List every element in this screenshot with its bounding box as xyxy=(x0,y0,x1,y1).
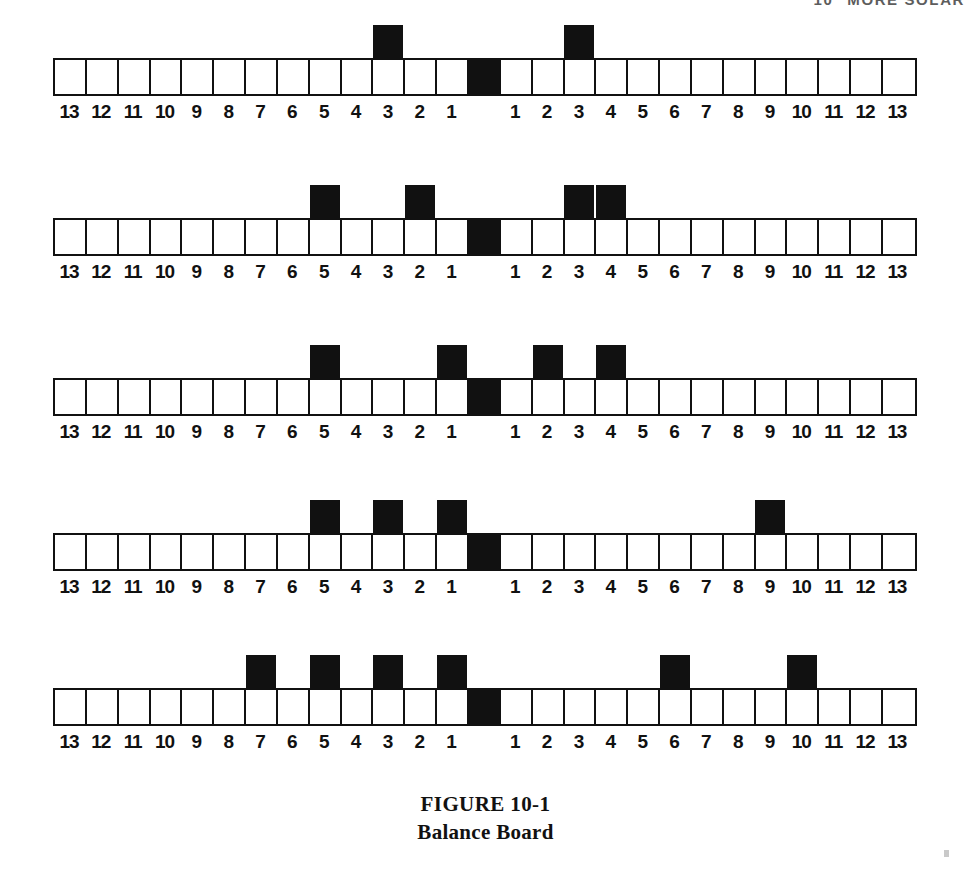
board-cell-left-3[interactable] xyxy=(373,380,405,414)
board-cell-left-11[interactable] xyxy=(119,690,151,724)
board-cell-right-6[interactable] xyxy=(660,690,692,724)
board-cell-right-10[interactable] xyxy=(787,60,819,94)
board-cell-right-8[interactable] xyxy=(724,60,756,94)
weight-block-left-1[interactable] xyxy=(437,655,467,690)
board-cell-right-13[interactable] xyxy=(883,380,915,414)
board-cell-right-2[interactable] xyxy=(533,535,565,569)
board-cell-left-7[interactable] xyxy=(246,535,278,569)
board-cell-right-12[interactable] xyxy=(851,690,883,724)
board-cell-left-11[interactable] xyxy=(119,60,151,94)
board-cell-left-10[interactable] xyxy=(151,690,183,724)
board-cell-left-10[interactable] xyxy=(151,60,183,94)
board-cell-right-2[interactable] xyxy=(533,690,565,724)
board-cell-right-3[interactable] xyxy=(565,690,597,724)
board-cell-left-13[interactable] xyxy=(55,380,87,414)
board-cell-left-2[interactable] xyxy=(405,535,437,569)
board-cell-right-5[interactable] xyxy=(628,535,660,569)
board-cell-right-9[interactable] xyxy=(756,60,788,94)
board-cell-left-4[interactable] xyxy=(342,220,374,254)
board-cell-left-4[interactable] xyxy=(342,690,374,724)
board-cell-left-7[interactable] xyxy=(246,60,278,94)
board-cell-left-3[interactable] xyxy=(373,220,405,254)
board-cell-right-13[interactable] xyxy=(883,220,915,254)
board-cell-left-11[interactable] xyxy=(119,380,151,414)
board-cell-right-11[interactable] xyxy=(819,220,851,254)
board-cell-left-1[interactable] xyxy=(437,220,469,254)
board-cell-left-3[interactable] xyxy=(373,690,405,724)
board-cell-left-9[interactable] xyxy=(182,220,214,254)
board-cell-left-7[interactable] xyxy=(246,220,278,254)
board-cell-left-2[interactable] xyxy=(405,220,437,254)
board-cell-left-10[interactable] xyxy=(151,380,183,414)
board-cell-left-8[interactable] xyxy=(214,60,246,94)
board-cell-right-7[interactable] xyxy=(692,380,724,414)
board-cell-left-13[interactable] xyxy=(55,690,87,724)
board-cell-right-3[interactable] xyxy=(565,535,597,569)
board-cell-right-9[interactable] xyxy=(756,535,788,569)
weight-block-left-5[interactable] xyxy=(310,655,340,690)
board-cell-left-11[interactable] xyxy=(119,535,151,569)
board-cell-right-2[interactable] xyxy=(533,60,565,94)
board-cell-left-8[interactable] xyxy=(214,380,246,414)
board-cell-right-5[interactable] xyxy=(628,220,660,254)
board-cell-left-9[interactable] xyxy=(182,380,214,414)
board-cell-left-8[interactable] xyxy=(214,690,246,724)
board-cell-left-2[interactable] xyxy=(405,60,437,94)
board-cell-left-5[interactable] xyxy=(310,60,342,94)
board-cell-right-13[interactable] xyxy=(883,60,915,94)
board-cell-right-1[interactable] xyxy=(501,220,533,254)
board-cell-left-1[interactable] xyxy=(437,690,469,724)
board-cell-right-7[interactable] xyxy=(692,535,724,569)
board-cell-left-6[interactable] xyxy=(278,380,310,414)
weight-block-left-1[interactable] xyxy=(437,345,467,380)
weight-block-left-3[interactable] xyxy=(373,655,403,690)
board-cell-right-6[interactable] xyxy=(660,60,692,94)
board-cell-left-10[interactable] xyxy=(151,220,183,254)
board-cell-left-12[interactable] xyxy=(87,690,119,724)
board-cell-left-12[interactable] xyxy=(87,60,119,94)
board-cell-right-7[interactable] xyxy=(692,60,724,94)
board-cell-right-13[interactable] xyxy=(883,535,915,569)
board-cell-left-9[interactable] xyxy=(182,535,214,569)
weight-block-left-5[interactable] xyxy=(310,185,340,220)
board-cell-right-4[interactable] xyxy=(596,380,628,414)
weight-block-right-4[interactable] xyxy=(596,185,626,220)
weight-block-right-6[interactable] xyxy=(660,655,690,690)
board-cell-left-6[interactable] xyxy=(278,690,310,724)
board-cell-left-7[interactable] xyxy=(246,690,278,724)
board-cell-left-6[interactable] xyxy=(278,535,310,569)
weight-block-left-3[interactable] xyxy=(373,500,403,535)
board-cell-left-2[interactable] xyxy=(405,380,437,414)
board-cell-right-2[interactable] xyxy=(533,380,565,414)
board-cell-left-10[interactable] xyxy=(151,535,183,569)
board-cell-left-2[interactable] xyxy=(405,690,437,724)
board-cell-right-13[interactable] xyxy=(883,690,915,724)
weight-block-left-5[interactable] xyxy=(310,500,340,535)
board-cell-right-10[interactable] xyxy=(787,380,819,414)
board-cell-right-9[interactable] xyxy=(756,690,788,724)
weight-block-right-9[interactable] xyxy=(755,500,785,535)
board-cell-right-4[interactable] xyxy=(596,60,628,94)
board-cell-left-8[interactable] xyxy=(214,535,246,569)
board-cell-right-3[interactable] xyxy=(565,220,597,254)
board-cell-right-12[interactable] xyxy=(851,60,883,94)
board-cell-left-12[interactable] xyxy=(87,380,119,414)
board-cell-left-3[interactable] xyxy=(373,60,405,94)
board-cell-left-11[interactable] xyxy=(119,220,151,254)
weight-block-left-3[interactable] xyxy=(373,25,403,60)
board-cell-left-6[interactable] xyxy=(278,220,310,254)
board-cell-left-12[interactable] xyxy=(87,535,119,569)
board-cell-right-7[interactable] xyxy=(692,690,724,724)
board-cell-right-5[interactable] xyxy=(628,380,660,414)
board-cell-right-12[interactable] xyxy=(851,535,883,569)
board-cell-right-8[interactable] xyxy=(724,380,756,414)
board-cell-right-1[interactable] xyxy=(501,535,533,569)
board-cell-right-5[interactable] xyxy=(628,690,660,724)
weight-block-right-10[interactable] xyxy=(787,655,817,690)
board-cell-right-1[interactable] xyxy=(501,60,533,94)
board-cell-right-8[interactable] xyxy=(724,220,756,254)
board-cell-right-10[interactable] xyxy=(787,690,819,724)
board-cell-left-9[interactable] xyxy=(182,60,214,94)
board-cell-left-9[interactable] xyxy=(182,690,214,724)
board-cell-right-4[interactable] xyxy=(596,220,628,254)
